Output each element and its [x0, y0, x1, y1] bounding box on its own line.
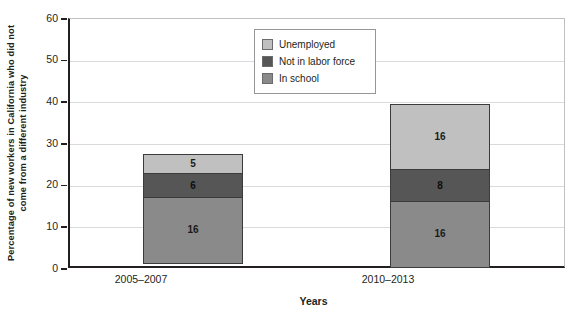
- bar-segment-in-school[interactable]: 16: [390, 201, 490, 268]
- bar-2005-2007[interactable]: 5 6 16: [143, 154, 243, 267]
- stacked-bar-chart: Percentage of new workers in California …: [0, 0, 577, 318]
- y-tick-label-50: 50: [32, 54, 58, 65]
- y-tick-30: [61, 143, 67, 145]
- legend-label: Unemployed: [279, 39, 335, 50]
- y-tick-0: [61, 268, 67, 270]
- bar-2010-2013[interactable]: 16 8 16: [390, 104, 490, 267]
- x-tick-label-2005-2007: 2005–2007: [91, 274, 191, 285]
- y-tick-label-40: 40: [32, 96, 58, 107]
- y-tick-10: [61, 226, 67, 228]
- bar-segment-unemployed[interactable]: 16: [390, 104, 490, 171]
- y-tick-label-0: 0: [32, 263, 58, 274]
- y-tick-label-20: 20: [32, 179, 58, 190]
- bar-segment-label: 6: [190, 181, 196, 191]
- y-tick-label-10: 10: [32, 221, 58, 232]
- x-axis-title: Years: [0, 295, 577, 307]
- x-tick-label-2010-2013: 2010–2013: [338, 274, 438, 285]
- bar-segment-label: 16: [434, 229, 445, 239]
- legend-item-unemployed[interactable]: Unemployed: [262, 36, 367, 53]
- bar-segment-not-in-labor-force[interactable]: 6: [143, 173, 243, 198]
- bar-segment-label: 5: [190, 159, 196, 169]
- x-axis-title-text: Years: [299, 295, 327, 307]
- legend-swatch-icon: [262, 73, 273, 84]
- legend-label: In school: [279, 73, 319, 84]
- legend: Unemployed Not in labor force In school: [254, 29, 376, 94]
- y-tick-label-60: 60: [32, 13, 58, 24]
- bar-segment-not-in-labor-force[interactable]: 8: [390, 169, 490, 202]
- y-tick-label-30: 30: [32, 138, 58, 149]
- legend-item-in-school[interactable]: In school: [262, 70, 367, 87]
- bar-segment-in-school[interactable]: 16: [143, 197, 243, 264]
- y-tick-60: [61, 18, 67, 20]
- legend-swatch-icon: [262, 56, 273, 67]
- y-tick-40: [61, 101, 67, 103]
- bar-segment-label: 16: [187, 225, 198, 235]
- legend-label: Not in labor force: [279, 56, 355, 67]
- legend-swatch-icon: [262, 39, 273, 50]
- y-tick-20: [61, 185, 67, 187]
- y-tick-50: [61, 60, 67, 62]
- bar-segment-unemployed[interactable]: 5: [143, 154, 243, 175]
- bar-segment-label: 16: [434, 132, 445, 142]
- bar-segment-label: 8: [437, 181, 443, 191]
- legend-item-not-in-labor-force[interactable]: Not in labor force: [262, 53, 367, 70]
